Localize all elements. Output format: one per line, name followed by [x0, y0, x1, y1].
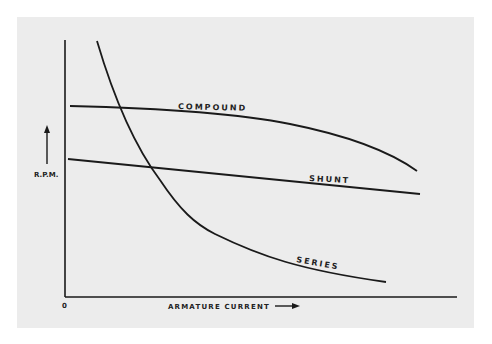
up-arrow-icon: [44, 125, 50, 133]
compound-curve: [70, 106, 417, 171]
shunt-curve: [68, 159, 420, 194]
origin-label: 0: [62, 302, 67, 310]
y-axis-label: R.P.M.: [34, 171, 58, 179]
x-axis-label: ARMATURE CURRENT: [168, 303, 270, 311]
right-arrow-icon: [292, 303, 300, 309]
series-label: SERIES: [296, 255, 340, 271]
compound-label: COMPOUND: [178, 102, 247, 113]
series-curve: [97, 41, 386, 282]
motor-speed-chart: COMPOUND SHUNT SERIES R.P.M. 0 ARMATURE …: [0, 0, 492, 344]
